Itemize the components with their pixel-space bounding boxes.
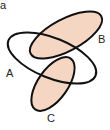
label-a: A xyxy=(6,67,14,79)
panel-label: a xyxy=(0,0,7,11)
label-c: C xyxy=(47,112,55,124)
venn-diagram: a B A C xyxy=(0,0,110,130)
label-b: B xyxy=(98,33,105,45)
